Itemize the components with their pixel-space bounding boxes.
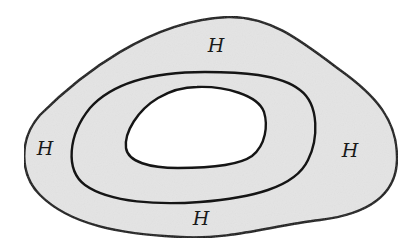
label-bottom: H — [192, 207, 210, 229]
label-top: H — [207, 34, 225, 56]
label-left: H — [36, 137, 54, 159]
label-right: H — [341, 139, 359, 161]
region-diagram: H H H H — [0, 0, 419, 244]
